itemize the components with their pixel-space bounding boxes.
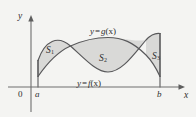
region-label-s3-subscript: 3 (157, 55, 160, 61)
curve-label-f-arg: (x) (91, 78, 102, 88)
x-tick-label-b: b (157, 90, 162, 99)
curve-label-f: y=f(x) (77, 79, 101, 88)
x-tick-label-a: a (35, 90, 40, 99)
curve-label-g-arg: (x) (106, 26, 117, 36)
x-axis-label: x (184, 91, 188, 101)
region-s2-fill (71, 38, 147, 73)
region-s1-fill (38, 40, 71, 76)
origin-label: 0 (18, 90, 23, 99)
region-label-s1-subscript: 1 (51, 49, 54, 55)
y-axis-label: y (18, 12, 22, 22)
region-label-s2: S2 (99, 54, 107, 64)
figure-area-between-curves: y x 0 a b y=g(x) y=f(x) S1 S2 S3 (0, 0, 196, 117)
y-axis-arrow-icon (28, 15, 33, 22)
figure-canvas (0, 0, 196, 117)
region-label-s2-subscript: 2 (104, 57, 107, 63)
region-label-s1: S1 (46, 46, 54, 56)
curve-label-g: y=g(x) (90, 27, 116, 36)
region-label-s3: S3 (152, 52, 160, 62)
x-axis-arrow-icon (179, 84, 186, 89)
